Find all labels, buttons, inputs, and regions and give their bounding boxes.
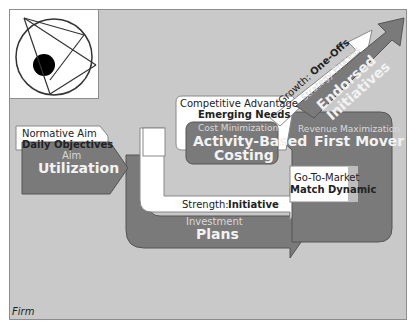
go-to-market-title: Match Dynamic: [290, 184, 376, 195]
normative-aim-caption: Normative Aim: [22, 128, 97, 139]
investment-title: Plans: [196, 227, 239, 242]
strength-title: Initiative: [228, 199, 279, 210]
strength-caption: Strength:: [182, 199, 229, 210]
cost-minimization-title-line2: Costing: [214, 148, 274, 163]
go-to-market-caption: Go-To-Market: [294, 172, 359, 183]
first-mover-title: First Mover: [314, 134, 404, 149]
normative-aim-title: Daily Objectives: [22, 139, 113, 150]
circle-with-arrows-icon: [10, 10, 100, 100]
competitive-advantage-title: Emerging Needs: [198, 109, 290, 120]
logo-box: [9, 9, 99, 99]
firm-label: Firm: [12, 306, 34, 317]
aim-title: Utilization: [38, 161, 119, 176]
